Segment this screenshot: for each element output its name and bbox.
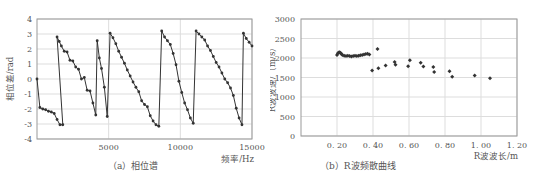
data-point: [100, 67, 103, 70]
data-point: [384, 63, 388, 67]
y-tick-label: 3: [27, 30, 32, 39]
data-point: [450, 75, 454, 79]
data-point: [61, 123, 64, 126]
data-point: [175, 63, 178, 66]
data-point: [432, 70, 436, 74]
data-point: [38, 106, 41, 109]
data-point: [195, 30, 198, 33]
x-tick-label: 5000: [98, 143, 118, 152]
y-tick-label: 2: [27, 45, 32, 54]
data-point: [117, 50, 120, 53]
data-point: [157, 125, 160, 128]
data-point: [232, 94, 235, 97]
data-point: [77, 68, 80, 71]
data-point: [71, 60, 74, 63]
data-point: [152, 120, 155, 123]
data-point: [47, 110, 50, 113]
data-point: [251, 45, 254, 48]
data-point: [226, 81, 229, 84]
x-tick-label: 10000: [168, 143, 193, 152]
y-tick-label: 4: [27, 15, 32, 24]
data-point: [50, 111, 53, 114]
y-tick-label: 0: [27, 75, 32, 84]
phase-spectrum-chart: 43210-1-2-3-450001000015000相位差/rad频率/Hz: [0, 0, 270, 180]
data-point: [132, 81, 135, 84]
data-point: [186, 108, 189, 111]
data-point: [160, 30, 163, 33]
data-point: [242, 32, 245, 35]
x-tick-label: 0. 40: [363, 141, 383, 150]
data-point: [69, 59, 72, 62]
data-point: [92, 102, 95, 105]
data-point: [431, 65, 435, 69]
data-point: [112, 36, 115, 39]
data-point: [140, 99, 143, 102]
phase-spectrum-caption: （a）相位谱: [108, 159, 158, 172]
data-point: [248, 41, 251, 44]
x-tick-label: 0. 80: [435, 141, 455, 150]
y-tick-label: 1500: [275, 74, 295, 83]
data-point: [41, 108, 44, 111]
data-point: [212, 55, 215, 58]
data-point: [80, 78, 83, 81]
data-point: [163, 36, 166, 39]
data-point: [135, 86, 138, 89]
data-point: [146, 105, 149, 108]
data-point: [209, 49, 212, 52]
data-point: [473, 74, 477, 78]
data-point: [421, 65, 425, 69]
data-point: [223, 78, 226, 81]
data-point: [419, 61, 423, 65]
data-point: [56, 118, 59, 121]
data-point: [448, 69, 452, 73]
data-point: [129, 75, 132, 78]
data-point: [215, 61, 218, 64]
data-point: [114, 42, 117, 45]
x-axis-label: R波波长/m: [474, 151, 518, 161]
data-point: [74, 66, 77, 69]
data-point: [200, 36, 203, 39]
data-point: [56, 36, 59, 39]
y-tick-label: 1: [27, 60, 32, 69]
data-point: [123, 62, 126, 65]
data-point: [149, 114, 152, 117]
data-point: [60, 45, 63, 48]
y-tick-label: 0: [290, 132, 295, 141]
x-tick-label: 1. 20: [507, 141, 527, 150]
data-point: [206, 45, 209, 48]
data-point: [103, 86, 106, 89]
data-point: [143, 103, 146, 106]
data-point: [106, 115, 109, 118]
data-point: [192, 122, 195, 125]
data-point: [172, 52, 175, 55]
data-point: [235, 107, 238, 110]
data-point: [109, 32, 112, 35]
data-point: [245, 37, 248, 40]
data-point: [178, 80, 181, 83]
data-point: [86, 89, 89, 92]
y-tick-label: 1000: [275, 93, 295, 102]
data-point: [63, 50, 66, 53]
y-tick-label: 500: [280, 113, 295, 122]
x-tick-label: 15000: [239, 143, 264, 152]
data-point: [89, 90, 92, 93]
data-point: [66, 51, 69, 54]
y-tick-label: -3: [24, 120, 32, 129]
data-point: [58, 40, 61, 43]
x-tick-label: 0. 60: [399, 141, 419, 150]
x-tick-label: 0. 20: [327, 141, 347, 150]
phase-spectrum-panel: 43210-1-2-3-450001000015000相位差/rad频率/Hz …: [0, 0, 270, 180]
data-point: [180, 91, 183, 94]
data-point: [126, 69, 129, 72]
data-point: [53, 112, 56, 115]
y-axis-label: 相位差/rad: [5, 56, 15, 101]
data-point: [155, 123, 158, 126]
data-point: [83, 76, 86, 79]
x-axis-label: 频率/Hz: [221, 154, 254, 164]
y-tick-label: -2: [24, 105, 32, 114]
data-point: [36, 78, 39, 81]
dispersion-curve-panel: 3000250020001500100050000. 200. 400. 600…: [270, 0, 538, 180]
data-point: [94, 114, 97, 117]
data-point: [376, 47, 380, 51]
data-point: [137, 90, 140, 93]
